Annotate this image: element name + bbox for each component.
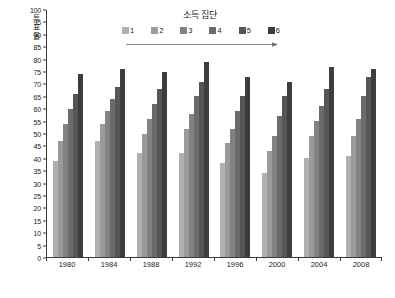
bar-group-2004 xyxy=(298,10,340,257)
y-axis-tick: 15 xyxy=(34,217,46,224)
y-axis-tick-label: 55 xyxy=(34,118,41,125)
y-axis-ticks: 0510152025303540455055606570758085909510… xyxy=(0,10,46,258)
y-axis-tick: 65 xyxy=(34,93,46,100)
bar-group-2008 xyxy=(340,10,382,257)
y-axis-tick-label: 90 xyxy=(34,31,41,38)
x-axis-labels: 19801984198819921996200020042008 xyxy=(46,260,382,276)
y-axis-tick-label: 95 xyxy=(34,19,41,26)
y-axis-tick-label: 45 xyxy=(34,143,41,150)
y-axis-tick: 40 xyxy=(34,155,46,162)
chart-figure: 소득 집단 123456 투표율 05101520253035404550556… xyxy=(0,0,395,298)
bar-group-2000 xyxy=(256,10,298,257)
y-axis-tick-label: 25 xyxy=(34,193,41,200)
y-axis-tick: 35 xyxy=(34,168,46,175)
bar[interactable] xyxy=(204,62,209,257)
y-axis-tick: 45 xyxy=(34,143,46,150)
bar[interactable] xyxy=(287,82,292,257)
y-axis-tick-label: 15 xyxy=(34,217,41,224)
bar[interactable] xyxy=(329,67,334,257)
y-axis-tick-label: 35 xyxy=(34,168,41,175)
bar-group-1984 xyxy=(89,10,131,257)
x-axis-label-1980: 1980 xyxy=(46,260,88,276)
y-axis-tick: 20 xyxy=(34,205,46,212)
y-axis-tick-label: 50 xyxy=(34,131,41,138)
y-axis-tick: 5 xyxy=(37,242,46,249)
y-axis-tick: 10 xyxy=(34,230,46,237)
x-axis-label-1992: 1992 xyxy=(172,260,214,276)
y-axis-tick: 0 xyxy=(37,255,46,262)
bar-group-1996 xyxy=(215,10,257,257)
y-axis-tick: 70 xyxy=(34,81,46,88)
x-axis-label-1996: 1996 xyxy=(214,260,256,276)
bar[interactable] xyxy=(245,77,250,257)
y-axis-tick-label: 80 xyxy=(34,56,41,63)
bar-group-1980 xyxy=(47,10,89,257)
y-axis-tick-label: 0 xyxy=(37,255,41,262)
y-axis-tick: 55 xyxy=(34,118,46,125)
y-axis-tick-label: 100 xyxy=(30,7,41,14)
y-axis-tick: 85 xyxy=(34,44,46,51)
y-axis-tick: 90 xyxy=(34,31,46,38)
y-axis-tick: 50 xyxy=(34,131,46,138)
y-axis-tick-label: 40 xyxy=(34,155,41,162)
y-axis-tick: 25 xyxy=(34,193,46,200)
y-axis-tick-label: 65 xyxy=(34,93,41,100)
y-axis-tick-label: 85 xyxy=(34,44,41,51)
bar[interactable] xyxy=(78,74,83,257)
y-axis-tick: 80 xyxy=(34,56,46,63)
y-axis-tick-label: 5 xyxy=(37,242,41,249)
x-axis-label-1988: 1988 xyxy=(130,260,172,276)
y-axis-tick: 75 xyxy=(34,69,46,76)
y-axis-tick: 95 xyxy=(34,19,46,26)
bar-group-1992 xyxy=(173,10,215,257)
bars-area xyxy=(47,10,382,257)
y-axis-tick-label: 20 xyxy=(34,205,41,212)
bar[interactable] xyxy=(371,69,376,257)
y-axis-tick-label: 75 xyxy=(34,69,41,76)
y-axis-tick-label: 70 xyxy=(34,81,41,88)
x-axis-label-2000: 2000 xyxy=(256,260,298,276)
bar-group-1988 xyxy=(131,10,173,257)
bar[interactable] xyxy=(162,72,167,257)
y-axis-tick: 100 xyxy=(30,7,46,14)
y-axis-tick: 60 xyxy=(34,106,46,113)
x-axis-label-2004: 2004 xyxy=(298,260,340,276)
y-axis-tick-label: 60 xyxy=(34,106,41,113)
x-axis-label-2008: 2008 xyxy=(340,260,382,276)
y-axis-tick: 30 xyxy=(34,180,46,187)
bar[interactable] xyxy=(120,69,125,257)
y-axis-tick-label: 10 xyxy=(34,230,41,237)
x-axis-label-1984: 1984 xyxy=(88,260,130,276)
y-axis-tick-label: 30 xyxy=(34,180,41,187)
